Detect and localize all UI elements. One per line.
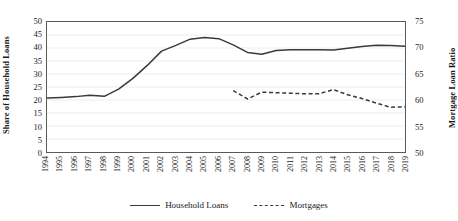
y-tick-left: 10 <box>34 122 43 131</box>
x-tick-label: 2011 <box>287 156 295 172</box>
x-tick-label: 2005 <box>200 156 208 172</box>
x-tick-label: 2016 <box>359 156 367 172</box>
y-tick-right: 55 <box>415 122 424 131</box>
legend-label: Mortgages <box>289 200 328 210</box>
series-line-household-loans <box>47 38 405 98</box>
legend-item[interactable]: Household Loans <box>130 200 228 210</box>
x-tick-label: 2002 <box>157 156 165 172</box>
y-tick-left: 35 <box>34 56 43 65</box>
y-tick-left: 15 <box>34 109 43 118</box>
y-tick-left: 5 <box>38 136 42 145</box>
y-axis-left-title: Share of Household Loans <box>1 10 11 160</box>
x-tick-label: 2008 <box>244 156 252 172</box>
y-axis-right-title: Mortgage Loan Ratio <box>447 18 457 158</box>
x-tick-label: 1996 <box>71 156 79 172</box>
y-tick-left: 30 <box>34 70 43 79</box>
chart-svg <box>47 22 405 152</box>
y-tick-right: 50 <box>415 149 424 158</box>
y-tick-right: 65 <box>415 70 424 79</box>
plot-area <box>46 21 406 153</box>
x-tick-label: 2018 <box>388 156 396 172</box>
x-tick-label: 2003 <box>172 156 180 172</box>
y-tick-left: 20 <box>34 96 43 105</box>
x-tick-label: 2017 <box>373 156 381 172</box>
legend-item[interactable]: Mortgages <box>254 200 328 210</box>
y-tick-left: 25 <box>34 83 43 92</box>
x-tick-label: 2015 <box>344 156 352 172</box>
legend-swatch-icon <box>130 205 160 206</box>
series-line-mortgages <box>233 90 405 108</box>
x-tick-label: 2010 <box>272 156 280 172</box>
y-tick-right: 70 <box>415 43 424 52</box>
y-tick-right: 60 <box>415 96 424 105</box>
y-tick-left: 40 <box>34 43 43 52</box>
x-tick-label: 2009 <box>258 156 266 172</box>
x-tick-label: 1994 <box>42 156 50 172</box>
x-tick-label: 2000 <box>128 156 136 172</box>
y-tick-left: 50 <box>34 17 43 26</box>
x-tick-label: 2012 <box>301 156 309 172</box>
x-tick-label: 1998 <box>100 156 108 172</box>
chart-container: Share of Household Loans 051015202530354… <box>0 0 458 221</box>
x-tick-label: 1995 <box>56 156 64 172</box>
legend-swatch-icon <box>254 205 284 206</box>
x-tick-label: 2001 <box>143 156 151 172</box>
x-tick-label: 2013 <box>316 156 324 172</box>
chart-legend: Household LoansMortgages <box>0 200 458 210</box>
y-tick-left: 45 <box>34 30 43 39</box>
y-tick-right: 75 <box>415 17 424 26</box>
x-tick-label: 2007 <box>229 156 237 172</box>
x-tick-label: 2006 <box>215 156 223 172</box>
x-axis-ticks: 1994199519961997199819992000200120022003… <box>46 156 406 198</box>
x-tick-label: 2019 <box>402 156 410 172</box>
x-tick-label: 1999 <box>114 156 122 172</box>
legend-label: Household Loans <box>165 200 228 210</box>
x-tick-label: 1997 <box>85 156 93 172</box>
x-tick-label: 2004 <box>186 156 194 172</box>
x-tick-label: 2014 <box>330 156 338 172</box>
